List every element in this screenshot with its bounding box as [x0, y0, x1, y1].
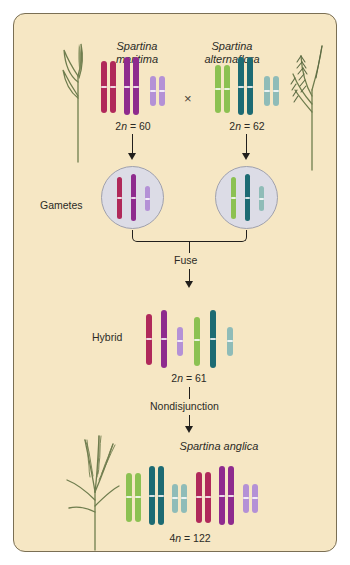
arrow-to-left-gamete-line [132, 134, 133, 155]
parent-left-ploidy: 2n = 60 [115, 120, 150, 132]
cross-symbol: × [184, 91, 192, 106]
centromere [158, 495, 164, 497]
chromosome-purple [133, 57, 139, 115]
offspring-name: Spartina anglica [144, 440, 294, 453]
centromere [133, 86, 139, 88]
chromosome-lavender [159, 76, 165, 106]
chromosome-teal [245, 174, 250, 221]
chromosome-lavender [243, 484, 249, 513]
chromosome-green [215, 65, 221, 113]
chromosome-lavender [150, 76, 156, 106]
chromosome-crimson [146, 314, 152, 365]
centromere [210, 338, 216, 340]
chromosome-crimson [110, 61, 116, 113]
centromere [146, 338, 152, 340]
chromosome-pale-teal [227, 327, 233, 356]
chromosome-pale-teal [273, 76, 279, 106]
chromosome-crimson [101, 61, 107, 113]
arrow-to-left-gamete-head [128, 153, 136, 160]
chromosome-green [135, 473, 141, 522]
spartina-alternaflora-plant-icon [282, 38, 337, 170]
nondisjunction-label: Nondisjunction [150, 400, 219, 412]
centromere [228, 495, 234, 497]
chromosome-lavender [145, 186, 150, 211]
offspring-ploidy: 4n = 122 [169, 532, 210, 544]
chromosome-crimson [205, 472, 211, 523]
chromosome-pale-teal [181, 484, 187, 513]
centromere [194, 339, 200, 341]
chromosome-pale-teal [264, 76, 270, 106]
arrow-to-right-gamete-head [242, 153, 250, 160]
centromere [259, 198, 264, 200]
chromosome-purple [219, 466, 225, 525]
gametes-label: Gametes [40, 199, 83, 211]
chromosome-green [194, 317, 200, 366]
centromere [181, 497, 187, 499]
ploidy-suffix: = 60 [127, 120, 151, 132]
chromosome-crimson [117, 177, 122, 219]
chromosome-pale-teal [172, 484, 178, 513]
nondisjunction-arrow-head [185, 426, 193, 433]
parent-right-name-line2: alternaflora [180, 53, 284, 66]
chromosome-green [126, 473, 132, 522]
centromere [135, 496, 141, 498]
fuse-bracket [132, 230, 247, 242]
centromere [238, 86, 244, 88]
parent-right-name-line1: Spartina [180, 40, 284, 53]
figure-panel: Spartina maritima Spartina alternaflora … [13, 13, 337, 552]
centromere [177, 340, 183, 342]
nondisjunction-line-top [189, 387, 190, 399]
centromere [161, 338, 167, 340]
centromere [126, 496, 132, 498]
centromere [227, 340, 233, 342]
chromosome-crimson [196, 472, 202, 523]
centromere [219, 495, 225, 497]
chromosome-lavender [177, 327, 183, 356]
chromosome-lavender [252, 484, 258, 513]
arrow-to-right-gamete-line [246, 134, 247, 155]
centromere [145, 198, 150, 200]
centromere [224, 88, 230, 90]
chromosome-green [224, 65, 230, 113]
centromere [205, 496, 211, 498]
ploidy-suffix: = 122 [181, 532, 211, 544]
centromere [243, 497, 249, 499]
hybrid-label: Hybrid [92, 331, 122, 343]
centromere [150, 90, 156, 92]
centromere [247, 86, 253, 88]
ploidy-suffix: = 62 [241, 120, 265, 132]
chromosome-purple [131, 174, 136, 221]
parent-right-name: Spartina alternaflora [180, 40, 284, 66]
ploidy-suffix: = 61 [183, 372, 207, 384]
chromosome-purple [161, 310, 167, 368]
centromere [131, 197, 136, 199]
chromosome-teal [149, 466, 155, 525]
centromere [252, 497, 258, 499]
arrow-to-hybrid-head [185, 281, 193, 288]
centromere [245, 197, 250, 199]
chromosome-teal [158, 466, 164, 525]
centromere [196, 496, 202, 498]
centromere [159, 90, 165, 92]
parent-right-ploidy: 2n = 62 [229, 120, 264, 132]
centromere [101, 86, 107, 88]
chromosome-green [231, 177, 236, 219]
fuse-bracket-stem [189, 242, 190, 253]
centromere [273, 90, 279, 92]
centromere [110, 86, 116, 88]
fuse-label: Fuse [174, 254, 197, 266]
chromosome-teal [210, 310, 216, 368]
hybrid-ploidy: 2n = 61 [171, 372, 206, 384]
chromosome-pale-teal [259, 186, 264, 211]
centromere [117, 197, 122, 199]
chromosome-purple [228, 466, 234, 525]
parent-left-name-line1: Spartina [92, 40, 182, 53]
centromere [215, 88, 221, 90]
spartina-anglica-plant-icon [47, 422, 135, 550]
centromere [264, 90, 270, 92]
centromere [149, 495, 155, 497]
chromosome-purple [124, 57, 130, 115]
centromere [172, 497, 178, 499]
centromere [124, 86, 130, 88]
chromosome-teal [247, 57, 253, 115]
